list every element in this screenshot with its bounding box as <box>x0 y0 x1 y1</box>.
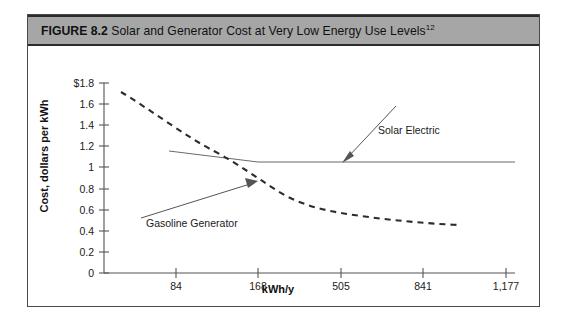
figure-caption-text: Solar and Generator Cost at Very Low Ene… <box>111 24 425 38</box>
annotation-label-solar-electric: Solar Electric <box>378 124 440 136</box>
chart-canvas <box>28 46 541 306</box>
figure-footnote-marker: 12 <box>426 23 435 32</box>
annotation-leader-gasoline-generator <box>141 178 258 218</box>
y-tick-label-0_2: 0.2 <box>36 246 94 258</box>
x-tick-label-1177: 1,177 <box>476 280 536 292</box>
figure-container: FIGURE 8.2 Solar and Generator Cost at V… <box>27 14 540 307</box>
x-axis-title: kWh/y <box>208 283 348 295</box>
y-tick-label-0: 0 <box>36 267 94 279</box>
series-line-solar-electric <box>169 151 515 162</box>
x-tick-label-84: 84 <box>146 280 206 292</box>
figure-caption-banner: FIGURE 8.2 Solar and Generator Cost at V… <box>28 15 539 46</box>
x-tick-label-841: 841 <box>393 280 453 292</box>
y-axis-title: Cost, dollars per kWh <box>38 76 50 236</box>
series-line-gasoline-generator <box>121 92 458 225</box>
figure-root: FIGURE 8.2 Solar and Generator Cost at V… <box>0 0 571 329</box>
annotation-label-gasoline-generator: Gasoline Generator <box>146 217 238 229</box>
plot-area: $1.8 1.6 1.4 1.2 1 0.8 0.6 0.4 0.2 0 84 … <box>28 46 541 306</box>
figure-caption: FIGURE 8.2 Solar and Generator Cost at V… <box>28 23 435 38</box>
figure-number: FIGURE 8.2 <box>41 24 108 38</box>
